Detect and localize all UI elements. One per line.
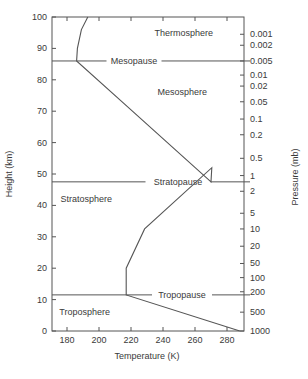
pressure-tick-label: 0.5 xyxy=(250,153,263,163)
pressure-tick-label: 50 xyxy=(250,258,260,268)
pressure-tick-label: 0.1 xyxy=(250,114,263,124)
pressure-tick-label: 0.001 xyxy=(250,29,273,39)
x-tick-label: 180 xyxy=(59,335,74,345)
y-tick-label: 70 xyxy=(37,106,47,116)
pressure-tick-label: 200 xyxy=(250,287,265,297)
x-tick-label: 220 xyxy=(123,335,138,345)
pressure-tick-label: 1 xyxy=(250,171,255,181)
pressure-tick-label: 1000 xyxy=(250,326,270,336)
temperature-line xyxy=(77,17,240,331)
boundary-label: Mesopause xyxy=(111,56,158,66)
boundary-label: Stratopause xyxy=(154,177,203,187)
pressure-tick-label: 0.002 xyxy=(250,40,273,50)
y-tick-label: 10 xyxy=(37,295,47,305)
y-tick-label: 60 xyxy=(37,138,47,148)
y-axis-pressure: 0.0010.0020.0050.010.020.050.10.20.51251… xyxy=(240,29,273,336)
pressure-tick-label: 20 xyxy=(250,241,260,251)
region-labels: TroposphereStratosphereMesosphereThermos… xyxy=(59,28,213,317)
x-tick-label: 240 xyxy=(155,335,170,345)
x-tick-label: 200 xyxy=(91,335,106,345)
temperature-curve xyxy=(77,17,240,331)
x-tick-label: 260 xyxy=(187,335,202,345)
x-axis-title: Temperature (K) xyxy=(114,351,179,361)
region-label: Thermosphere xyxy=(155,28,214,38)
y-axis-title: Height (km) xyxy=(4,151,14,198)
x-axis: 180200220240260280 xyxy=(59,17,234,345)
y-tick-label: 20 xyxy=(37,263,47,273)
region-label: Mesosphere xyxy=(157,87,207,97)
layer-boundaries: TropopauseStratopauseMesopause xyxy=(52,56,250,300)
y-tick-label: 40 xyxy=(37,200,47,210)
y-tick-label: 50 xyxy=(37,169,47,179)
pressure-tick-label: 5 xyxy=(250,208,255,218)
pressure-tick-label: 0.2 xyxy=(250,130,263,140)
region-label: Stratosphere xyxy=(60,194,112,204)
pressure-tick-label: 500 xyxy=(250,307,265,317)
y-tick-label: 100 xyxy=(32,12,47,22)
y-tick-label: 80 xyxy=(37,75,47,85)
y-tick-label: 30 xyxy=(37,232,47,242)
temperature-height-chart: TropopauseStratopauseMesopause 180200220… xyxy=(0,0,308,379)
pressure-tick-label: 0.02 xyxy=(250,81,268,91)
region-label: Troposphere xyxy=(59,307,110,317)
pressure-tick-label: 2 xyxy=(250,186,255,196)
pressure-tick-label: 100 xyxy=(250,273,265,283)
boundary-label: Tropopause xyxy=(158,290,206,300)
y-tick-label: 90 xyxy=(37,43,47,53)
pressure-tick-label: 0.005 xyxy=(250,56,273,66)
y2-axis-title: Pressure (mb) xyxy=(290,148,300,205)
pressure-tick-label: 0.01 xyxy=(250,70,268,80)
x-tick-label: 280 xyxy=(219,335,234,345)
pressure-tick-label: 10 xyxy=(250,224,260,234)
y-tick-label: 0 xyxy=(42,326,47,336)
pressure-tick-label: 0.05 xyxy=(250,97,268,107)
